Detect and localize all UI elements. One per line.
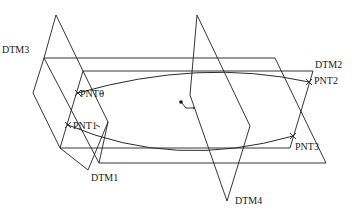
label-dtm3: DTM3 [2,44,29,55]
plane-dtm4 [190,15,250,201]
point-marker-pnt1 [65,122,71,128]
label-dtm4: DTM4 [235,195,262,206]
label-pnt3: PNT3 [295,141,319,152]
label-dtm2: DTM2 [315,59,342,70]
label-pnt2: PNT2 [314,75,338,86]
label-pnt1: PNT1 [73,120,97,131]
plane-dtm1 [44,58,108,170]
diagram-canvas: DTM3 DTM2 DTM1 DTM4 PNT0 PNT1 PNT2 PNT3 [0,0,352,221]
label-dtm1: DTM1 [91,172,118,183]
coordinate-triad-icon [179,100,195,109]
label-pnt0: PNT0 [80,88,104,99]
curve-pnt0-pnt2 [78,72,309,93]
